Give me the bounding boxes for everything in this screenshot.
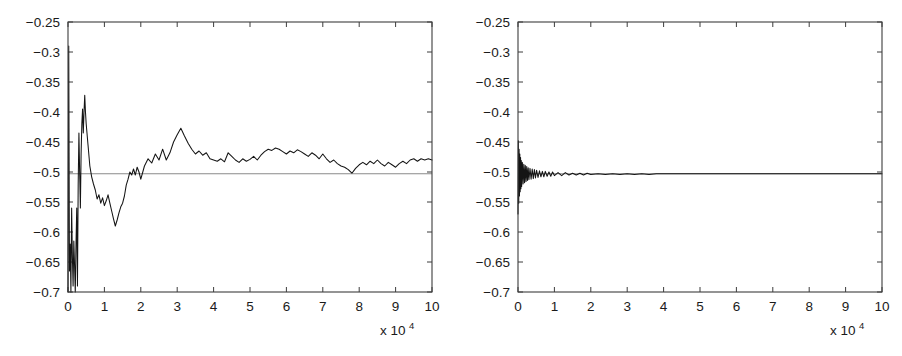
x-tick-label: 0: [514, 299, 522, 314]
data-trace: [68, 46, 432, 292]
axis-ticks: [68, 22, 432, 292]
y-tick-label: −0.25: [26, 15, 60, 30]
x-tick-label: 7: [769, 299, 777, 314]
x-tick-label: 2: [137, 299, 145, 314]
y-tick-label: −0.4: [33, 105, 60, 120]
y-tick-label: −0.3: [483, 45, 510, 60]
svg-text:x 10: x 10: [830, 323, 856, 338]
x-tick-label: 4: [660, 299, 668, 314]
y-tick-label: −0.5: [33, 165, 60, 180]
x-tick-label: 5: [696, 299, 704, 314]
x-axis-multiplier-label: x 104: [830, 320, 864, 338]
x-tick-label: 6: [733, 299, 741, 314]
plot-svg: −0.25−0.3−0.35−0.4−0.45−0.5−0.55−0.6−0.6…: [0, 0, 451, 356]
x-tick-label: 0: [64, 299, 72, 314]
y-tick-label: −0.7: [483, 285, 510, 300]
y-tick-label: −0.5: [483, 165, 510, 180]
x-tick-label: 3: [623, 299, 631, 314]
data-trace: [518, 141, 882, 214]
y-tick-label: −0.6: [33, 225, 60, 240]
y-tick-label: −0.4: [483, 105, 510, 120]
plot-svg: −0.25−0.3−0.35−0.4−0.45−0.5−0.55−0.6−0.6…: [451, 0, 902, 356]
x-tick-label: 3: [173, 299, 181, 314]
y-tick-label: −0.35: [26, 75, 60, 90]
svg-text:4: 4: [409, 320, 414, 331]
axis-ticks: [518, 22, 882, 292]
axis-box: [68, 22, 432, 292]
y-tick-label: −0.65: [476, 255, 510, 270]
chart-panel-left: −0.25−0.3−0.35−0.4−0.45−0.5−0.55−0.6−0.6…: [0, 0, 451, 356]
y-tick-label: −0.65: [26, 255, 60, 270]
x-tick-label: 5: [246, 299, 254, 314]
y-tick-label: −0.25: [476, 15, 510, 30]
x-tick-label: 2: [587, 299, 595, 314]
x-tick-label: 9: [842, 299, 850, 314]
chart-panel-right: −0.25−0.3−0.35−0.4−0.45−0.5−0.55−0.6−0.6…: [451, 0, 902, 356]
x-tick-label: 1: [101, 299, 109, 314]
y-tick-label: −0.7: [33, 285, 60, 300]
x-axis-multiplier-label: x 104: [380, 320, 414, 338]
y-tick-label: −0.45: [26, 135, 60, 150]
y-tick-label: −0.6: [483, 225, 510, 240]
x-tick-label: 10: [424, 299, 439, 314]
y-tick-label: −0.55: [26, 195, 60, 210]
x-tick-label: 8: [805, 299, 813, 314]
x-tick-label: 9: [392, 299, 400, 314]
axis-box: [518, 22, 882, 292]
figure-container: −0.25−0.3−0.35−0.4−0.45−0.5−0.55−0.6−0.6…: [0, 0, 902, 356]
svg-text:x 10: x 10: [380, 323, 406, 338]
x-tick-label: 1: [551, 299, 559, 314]
svg-text:4: 4: [859, 320, 864, 331]
y-tick-label: −0.55: [476, 195, 510, 210]
y-tick-label: −0.3: [33, 45, 60, 60]
x-tick-label: 8: [355, 299, 363, 314]
x-tick-label: 10: [874, 299, 889, 314]
y-tick-label: −0.45: [476, 135, 510, 150]
x-tick-label: 4: [210, 299, 218, 314]
x-tick-label: 6: [283, 299, 291, 314]
y-tick-label: −0.35: [476, 75, 510, 90]
x-tick-label: 7: [319, 299, 327, 314]
